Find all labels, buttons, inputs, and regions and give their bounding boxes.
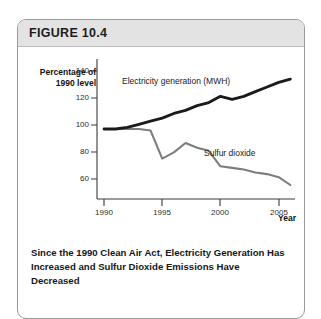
y-tick-label-100: 100 xyxy=(63,120,89,129)
figure-number-label: FIGURE 10.4 xyxy=(29,26,107,40)
y-tick-label-80: 80 xyxy=(63,147,89,156)
chart-plot-area: Percentage of 1990 level Year 140 120 10… xyxy=(18,47,305,233)
x-tick-label-2000: 2000 xyxy=(203,208,237,217)
x-tick-label-1990: 1990 xyxy=(87,208,121,217)
series-line-electricity-generation xyxy=(104,79,290,129)
y-tick-label-60: 60 xyxy=(63,174,89,183)
x-tick-label-2005: 2005 xyxy=(262,208,296,217)
figure-card: FIGURE 10.4 Percentage xyxy=(17,19,305,319)
y-tick-label-140: 140 xyxy=(63,66,89,75)
y-tick-label-120: 120 xyxy=(63,93,89,102)
series-label-sulfur-dioxide: Sulfur dioxide xyxy=(204,148,256,158)
figure-caption: Since the 1990 Clean Air Act, Electricit… xyxy=(18,233,304,288)
series-line-sulfur-dioxide xyxy=(104,129,290,185)
x-axis-ticks xyxy=(104,199,279,206)
x-tick-label-1995: 1995 xyxy=(145,208,179,217)
figure-header: FIGURE 10.4 xyxy=(18,20,304,47)
series-label-electricity-generation: Electricity generation (MWH) xyxy=(122,76,230,86)
